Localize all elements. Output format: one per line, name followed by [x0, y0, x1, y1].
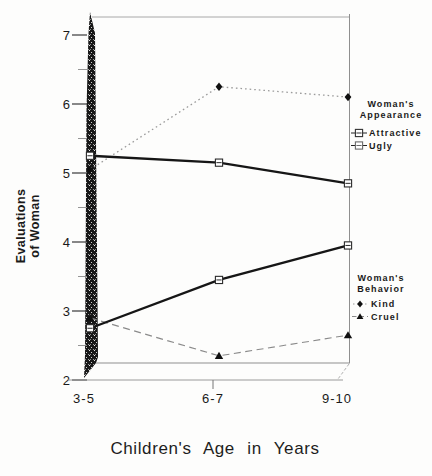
legend-item-kind: Kind — [353, 299, 395, 309]
y-tick-label-3: 3 — [63, 304, 70, 319]
legend-title-line: Woman's — [367, 99, 414, 109]
y-tick-label-7: 7 — [63, 28, 70, 43]
chart-figure: 7654323-56-79-10Evaluationsof Woman Woma… — [0, 0, 432, 476]
legend-item-attractive: Attractive — [351, 128, 422, 138]
legend-title-line: Behavior — [357, 284, 404, 294]
x-tick-label-6-7: 6-7 — [202, 391, 224, 406]
legend-item-label-kind: Kind — [371, 299, 395, 309]
point-marker-kind-9-10 — [345, 93, 352, 101]
series-layer — [86, 83, 352, 360]
legend-item-label-cruel: Cruel — [371, 312, 400, 322]
y-tick-label-4: 4 — [63, 235, 70, 250]
y-axis-title: Evaluationsof Woman — [14, 189, 42, 264]
legend-title-line: Woman's — [357, 273, 404, 283]
x-axis-title: Children's Age in Years — [110, 439, 319, 458]
y-tick-label-5: 5 — [63, 166, 70, 181]
legend-item-label-ugly: Ugly — [369, 141, 393, 151]
legend-woman's-behavior: Woman'sBehaviorKindCruel — [352, 273, 405, 322]
series-line-cruel — [90, 318, 348, 356]
y-axis-title-line: of Woman — [28, 194, 42, 257]
axes-layer: 7654323-56-79-10Evaluationsof Woman — [14, 12, 352, 406]
point-marker-cruel-9-10 — [344, 331, 352, 338]
y-tick-label-6: 6 — [63, 97, 70, 112]
series-line-ugly — [90, 245, 348, 328]
legend-title-line: Appearance — [360, 110, 423, 120]
y-axis-title-line: Evaluations — [14, 189, 28, 264]
frame-corner-fold — [338, 364, 349, 379]
point-marker-kind-6-7 — [216, 83, 223, 91]
x-tick-label-9-10: 9-10 — [322, 391, 352, 406]
legend-item-label-attractive: Attractive — [369, 128, 422, 138]
x-tick-label-3-5: 3-5 — [73, 391, 95, 406]
legend-item-ugly: Ugly — [351, 141, 393, 151]
legend-woman's-appearance: Woman'sAppearanceAttractiveUgly — [351, 99, 422, 151]
y-axis-bar — [84, 12, 98, 378]
legend-item-cruel: Cruel — [352, 312, 400, 322]
line-chart: 7654323-56-79-10Evaluationsof Woman Woma… — [0, 0, 432, 476]
legend-layer: Woman'sAppearanceAttractiveUglyWoman'sBe… — [351, 99, 422, 322]
legend-marker-kind — [357, 301, 363, 308]
